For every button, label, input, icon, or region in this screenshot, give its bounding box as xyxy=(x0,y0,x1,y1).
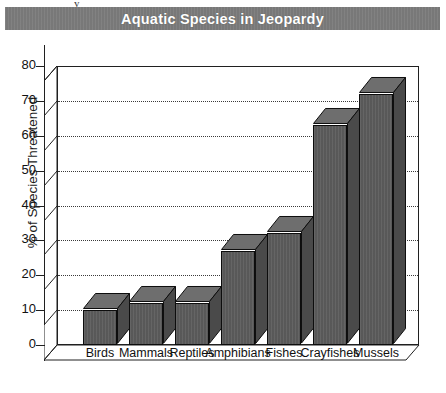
chart-title-banner: Aquatic Species in Jeopardy xyxy=(5,7,440,30)
bar-front-face xyxy=(175,303,209,345)
bar-series xyxy=(57,66,419,345)
bar-front-face xyxy=(129,303,163,345)
y-tick-label-50: 50 xyxy=(22,162,36,177)
y-tick-label-30: 30 xyxy=(22,231,36,246)
bar-crayfishes xyxy=(313,110,347,345)
y-tick-label-80: 80 xyxy=(22,57,36,72)
y-tick-depth-30 xyxy=(44,240,57,255)
y-tick-depth-80 xyxy=(44,66,57,81)
x-axis-label-crayfishes: Crayfishes xyxy=(300,346,359,360)
bar-front-face xyxy=(359,94,393,345)
y-tick-label-10: 10 xyxy=(22,301,36,316)
bar-reptiles xyxy=(175,288,209,345)
chart-title: Aquatic Species in Jeopardy xyxy=(121,11,324,27)
bar-front-face xyxy=(83,310,117,345)
x-axis-label-fishes: Fishes xyxy=(266,346,303,360)
y-tick-depth-20 xyxy=(44,275,57,290)
y-tick-depth-60 xyxy=(44,136,57,151)
bar-front-face xyxy=(221,251,255,345)
y-tick-label-60: 60 xyxy=(22,127,36,142)
bar-fishes xyxy=(267,218,301,345)
y-tick-label-20: 20 xyxy=(22,266,36,281)
bar-birds xyxy=(83,295,117,345)
bar-mammals xyxy=(129,288,163,345)
plot-area xyxy=(57,66,419,345)
y-tick-depth-70 xyxy=(44,101,57,116)
x-axis-label-mussels: Mussels xyxy=(353,346,399,360)
x-axis-label-birds: Birds xyxy=(86,346,114,360)
x-axis-label-amphibians: Amphibians xyxy=(205,346,270,360)
y-tick-depth-40 xyxy=(44,206,57,221)
bar-front-face xyxy=(313,125,347,345)
bar-amphibians xyxy=(221,236,255,345)
x-axis-labels: BirdsMammalsReptilesAmphibiansFishesCray… xyxy=(0,346,446,370)
y-axis: 01020304050607080 xyxy=(0,30,57,330)
bar-front-face xyxy=(267,233,301,345)
y-tick-label-70: 70 xyxy=(22,92,36,107)
scan-artifact-glyph: y xyxy=(74,0,81,7)
bar-mussels xyxy=(359,79,393,345)
y-tick-depth-50 xyxy=(44,171,57,186)
y-tick-label-40: 40 xyxy=(22,197,36,212)
y-tick-depth-10 xyxy=(44,310,57,325)
chart-area: % of Species Threatened 0102030405060708… xyxy=(0,30,446,393)
x-axis-label-mammals: Mammals xyxy=(119,346,173,360)
